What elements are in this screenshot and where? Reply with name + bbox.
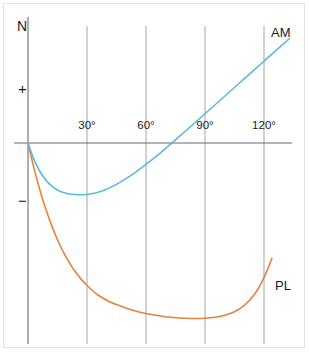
y-axis-title: N bbox=[17, 19, 27, 33]
y-tick-negative: − bbox=[18, 193, 27, 208]
x-tick-label-30: 30° bbox=[78, 120, 95, 132]
x-tick-label-120: 120° bbox=[252, 120, 276, 132]
chart-figure: N + − 30° 60° 90° 120° AM PL bbox=[0, 0, 309, 355]
x-tick-label-60: 60° bbox=[137, 120, 154, 132]
series-label-am: AM bbox=[271, 26, 291, 39]
chart-plot-area bbox=[0, 0, 309, 355]
gridlines bbox=[87, 26, 264, 344]
x-tick-label-90: 90° bbox=[196, 120, 213, 132]
series-label-pl: PL bbox=[275, 279, 291, 292]
series-line-am bbox=[28, 39, 290, 195]
y-tick-positive: + bbox=[18, 81, 27, 96]
series-line-pl bbox=[28, 143, 272, 319]
